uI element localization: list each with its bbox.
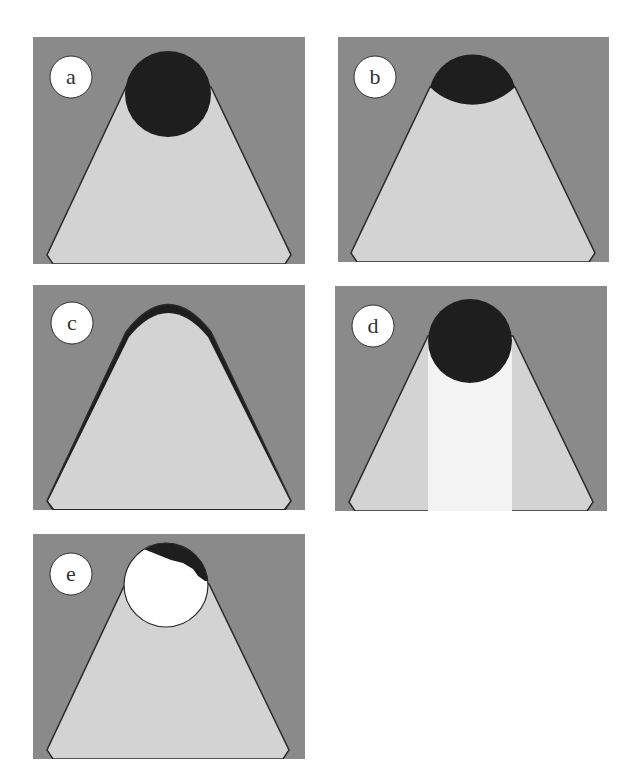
panel-b: b <box>338 37 609 262</box>
panel-c: c <box>33 285 305 510</box>
panel-label-badge: b <box>354 56 396 98</box>
panel-e: e <box>33 534 305 759</box>
panel-a-figure: a <box>33 37 305 264</box>
panel-e-figure: e <box>33 534 305 759</box>
panel-b-figure: b <box>338 37 609 262</box>
dark-circle <box>428 299 512 383</box>
panel-label: d <box>368 313 379 338</box>
panel-label-badge: d <box>352 305 394 347</box>
panel-label-badge: e <box>50 553 92 595</box>
panel-a: a <box>33 37 305 264</box>
panel-c-figure: c <box>33 285 305 510</box>
panel-label: c <box>67 310 77 335</box>
panel-label-badge: c <box>51 302 93 344</box>
panel-label: b <box>370 64 381 89</box>
dark-circle <box>125 51 211 137</box>
panel-label: a <box>66 64 76 89</box>
panel-label: e <box>66 561 76 586</box>
panel-label-badge: a <box>50 56 92 98</box>
panel-d: d <box>335 286 607 511</box>
panel-d-figure: d <box>335 286 607 511</box>
